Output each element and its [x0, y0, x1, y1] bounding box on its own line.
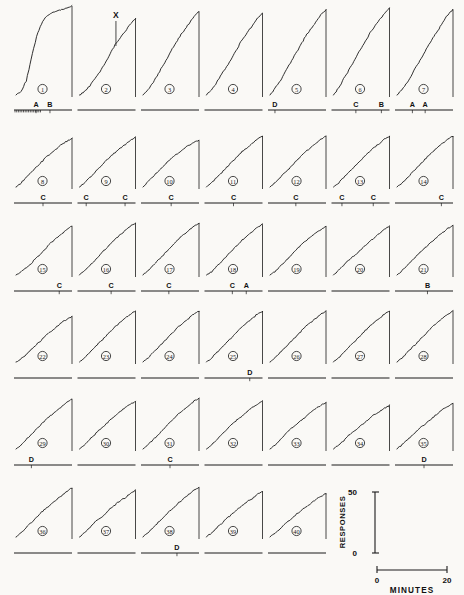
cumulative-curve: [16, 138, 72, 187]
event-label: B: [379, 100, 384, 109]
event-label: C: [166, 281, 171, 290]
record-number-label: 27: [357, 353, 364, 360]
minutes-max-tick-label: 20: [443, 576, 452, 585]
record-number-label: 19: [293, 266, 299, 273]
event-label: A: [244, 281, 249, 290]
cumulative-record-figure: 1AB2X345D6CB7AA8C9CC10C11C12C13CC14C15C1…: [0, 0, 464, 595]
record-number-label: 1: [41, 86, 44, 93]
x-annotation-label: X: [113, 10, 119, 20]
event-label: C: [57, 281, 62, 290]
record-number-label: 35: [420, 440, 426, 447]
record-number-label: 10: [166, 178, 172, 185]
responses-axis-title: RESPONSES: [338, 496, 347, 549]
record-number-label: 8: [41, 178, 44, 185]
minutes-axis-title: MINUTES: [390, 586, 435, 595]
record-number-label: 22: [39, 353, 45, 360]
event-label: B: [425, 281, 430, 290]
cumulative-curve: [397, 9, 453, 95]
responses-min-tick-label: 0: [353, 549, 358, 558]
record-number-label: 28: [420, 353, 426, 360]
record-number-label: 5: [295, 86, 298, 93]
record-number-label: 31: [166, 440, 172, 447]
event-label: C: [353, 100, 358, 109]
record-number-label: 2: [104, 86, 107, 93]
event-label: C: [230, 281, 235, 290]
event-label: C: [40, 193, 45, 202]
record-number-label: 34: [357, 440, 364, 447]
event-label: A: [423, 100, 428, 109]
event-label: D: [421, 455, 426, 464]
cumulative-curve: [143, 12, 199, 95]
event-label: C: [169, 193, 174, 202]
event-label: C: [84, 193, 89, 202]
record-number-label: 3: [168, 86, 171, 93]
event-label: C: [439, 193, 444, 202]
cumulative-curve: [16, 6, 72, 95]
record-number-label: 36: [39, 528, 45, 535]
event-label: A: [410, 100, 415, 109]
event-label: D: [247, 368, 252, 377]
record-number-label: 26: [293, 353, 299, 360]
cumulative-curve: [270, 10, 326, 95]
record-number-label: 16: [103, 266, 109, 273]
event-label: D: [174, 543, 179, 552]
record-number-label: 13: [357, 178, 363, 185]
panel-grid: 1AB2X345D6CB7AA8C9CC10C11C12C13CC14C15C1…: [14, 6, 453, 557]
record-number-label: 14: [420, 178, 427, 185]
event-label: B: [47, 100, 52, 109]
record-number-label: 6: [358, 86, 361, 93]
record-number-label: 9: [104, 178, 107, 185]
record-number-label: 32: [230, 440, 236, 447]
scale-legend: 50 0 RESPONSES 0 20 MINUTES: [338, 488, 452, 595]
record-number-label: 12: [293, 178, 299, 185]
record-number-label: 29: [39, 440, 45, 447]
event-label: C: [109, 281, 114, 290]
event-label: A: [33, 100, 38, 109]
record-number-label: 4: [231, 86, 235, 93]
record-number-label: 30: [103, 440, 109, 447]
cumulative-curve: [207, 13, 263, 95]
event-label: D: [29, 455, 34, 464]
record-number-label: 11: [230, 178, 236, 185]
record-number-label: 39: [230, 528, 236, 535]
responses-max-tick-label: 50: [348, 488, 357, 497]
record-number-label: 18: [230, 266, 236, 273]
event-label: C: [339, 193, 344, 202]
record-number-label: 17: [166, 266, 173, 273]
event-label: C: [122, 193, 127, 202]
cumulative-curve: [334, 8, 390, 95]
event-label: C: [167, 455, 172, 464]
record-number-label: 24: [166, 353, 173, 360]
figure-canvas: 1AB2X345D6CB7AA8C9CC10C11C12C13CC14C15C1…: [0, 0, 464, 595]
record-number-label: 20: [357, 266, 363, 273]
minutes-min-tick-label: 0: [375, 576, 380, 585]
record-number-label: 7: [422, 86, 426, 93]
record-number-label: 38: [166, 528, 172, 535]
record-number-label: 15: [39, 266, 45, 273]
record-number-label: 25: [230, 353, 236, 360]
event-label: C: [371, 193, 376, 202]
record-number-label: 40: [293, 528, 299, 535]
record-number-label: 33: [293, 440, 299, 447]
event-label: C: [293, 193, 298, 202]
cumulative-curve: [80, 18, 136, 95]
event-label: C: [231, 193, 236, 202]
record-number-label: 23: [103, 353, 109, 360]
event-label: D: [272, 100, 277, 109]
record-number-label: 21: [420, 266, 426, 273]
record-number-label: 37: [103, 528, 110, 535]
